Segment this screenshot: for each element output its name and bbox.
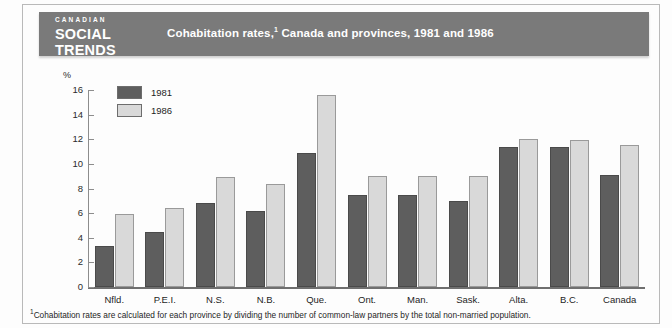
bar-group xyxy=(499,90,538,287)
x-axis-baseline xyxy=(88,287,645,289)
y-axis-tick-label: 2 xyxy=(39,256,83,267)
chart-header-band: CANADIAN SOCIAL TRENDS Cohabitation rate… xyxy=(39,12,649,56)
bar-NS-1981 xyxy=(196,203,215,287)
bar-group xyxy=(600,90,639,287)
bar-Sask-1986 xyxy=(469,176,488,287)
bar-group xyxy=(95,90,134,287)
bar-group xyxy=(145,90,184,287)
x-axis-label-Alta: Alta. xyxy=(493,294,544,305)
x-axis-label-Canada: Canada xyxy=(594,294,645,305)
bar-Que-1986 xyxy=(317,95,336,287)
bar-BC-1981 xyxy=(550,147,569,287)
bar-group xyxy=(398,90,437,287)
bar-PEI-1986 xyxy=(165,208,184,287)
x-axis-label-NB: N.B. xyxy=(241,294,292,305)
bar-group xyxy=(297,90,336,287)
y-axis-tick-label: 10 xyxy=(39,158,83,169)
x-axis-label-NS: N.S. xyxy=(190,294,241,305)
chart-title-rest: Canada and provinces, 1981 and 1986 xyxy=(278,27,494,39)
x-axis-label-Man: Man. xyxy=(392,294,443,305)
chart-page: CANADIAN SOCIAL TRENDS Cohabitation rate… xyxy=(0,0,672,328)
chart-title-main: Cohabitation rates, xyxy=(167,27,274,39)
bar-NS-1986 xyxy=(216,177,235,287)
chart-footnote: 1Cohabitation rates are calculated for e… xyxy=(30,308,655,320)
bar-group xyxy=(449,90,488,287)
bar-PEI-1981 xyxy=(145,232,164,287)
bar-Ont-1981 xyxy=(348,195,367,287)
x-axis-label-Que: Que. xyxy=(291,294,342,305)
page-border-right xyxy=(659,4,660,324)
bar-Nfld-1986 xyxy=(115,214,134,287)
y-axis-tick-label: 12 xyxy=(39,133,83,144)
footnote-text: Cohabitation rates are calculated for ea… xyxy=(34,310,531,320)
x-axis-label-PEI: P.E.I. xyxy=(140,294,191,305)
bar-Canada-1981 xyxy=(600,175,619,287)
brand-line-canadian: CANADIAN xyxy=(55,17,151,24)
y-axis-tick-label: 8 xyxy=(39,183,83,194)
page-border-top xyxy=(22,4,660,5)
bar-NB-1981 xyxy=(246,211,265,287)
bar-group xyxy=(196,90,235,287)
bar-group xyxy=(348,90,387,287)
bar-group xyxy=(550,90,589,287)
chart-title: Cohabitation rates,1 Canada and province… xyxy=(167,26,494,39)
bar-Man-1981 xyxy=(398,195,417,287)
page-border-left xyxy=(22,4,23,324)
y-axis-tick-label: 16 xyxy=(39,84,83,95)
y-axis-tick xyxy=(88,287,94,288)
bar-Man-1986 xyxy=(418,176,437,287)
publication-logo: CANADIAN SOCIAL TRENDS xyxy=(55,17,151,58)
y-axis-tick-label: 6 xyxy=(39,207,83,218)
bar-Ont-1986 xyxy=(368,176,387,287)
bar-Que-1981 xyxy=(297,153,316,287)
y-axis-tick-label: 14 xyxy=(39,109,83,120)
bar-Sask-1981 xyxy=(449,201,468,287)
chart-plot-region: % 0246810121416 19811986 Nfld.P.E.I.N.S.… xyxy=(39,62,649,302)
bar-NB-1986 xyxy=(266,184,285,287)
bar-Nfld-1981 xyxy=(95,246,114,287)
x-axis-label-Ont: Ont. xyxy=(342,294,393,305)
bar-Alta-1986 xyxy=(519,139,538,287)
bar-Alta-1981 xyxy=(499,147,518,287)
bar-BC-1986 xyxy=(570,140,589,287)
page-border-bottom xyxy=(22,323,660,324)
y-axis-tick-label: 0 xyxy=(39,281,83,292)
bar-group xyxy=(246,90,285,287)
y-axis-unit-label: % xyxy=(63,70,71,80)
bar-Canada-1986 xyxy=(620,145,639,287)
x-axis-label-BC: B.C. xyxy=(544,294,595,305)
y-axis-tick-label: 4 xyxy=(39,232,83,243)
brand-line-social: SOCIAL xyxy=(55,26,151,42)
brand-line-trends: TRENDS xyxy=(55,42,151,58)
x-axis-label-Sask: Sask. xyxy=(443,294,494,305)
x-axis-label-Nfld: Nfld. xyxy=(89,294,140,305)
bars-container xyxy=(89,90,645,287)
